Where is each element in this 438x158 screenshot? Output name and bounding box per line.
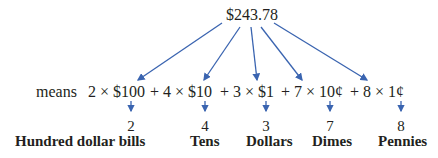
arrow-to-dollars xyxy=(251,27,257,80)
label-tens: Tens xyxy=(190,133,219,150)
label-hundreds: Hundred dollar bills xyxy=(15,133,145,150)
total-amount: $243.78 xyxy=(226,6,278,24)
label-dollars: Dollars xyxy=(246,133,293,150)
means-label: means xyxy=(36,83,77,101)
term-tens: + 4 × $10 xyxy=(150,83,212,101)
term-pennies: + 8 × 1¢ xyxy=(350,83,404,101)
term-dollars: + 3 × $1 xyxy=(220,83,274,101)
label-dimes: Dimes xyxy=(312,133,352,150)
term-hundreds: 2 × $100 xyxy=(88,83,145,101)
arrow-to-tens xyxy=(204,27,240,80)
term-dimes: + 7 × 10¢ xyxy=(281,83,343,101)
arrow-to-dimes xyxy=(261,27,302,80)
arrow-to-pennies xyxy=(274,23,367,80)
label-pennies: Pennies xyxy=(378,133,427,150)
